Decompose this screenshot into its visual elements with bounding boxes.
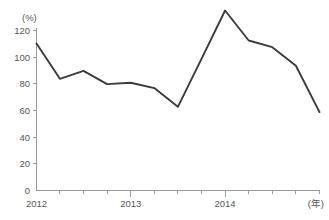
line-chart: 120 100 80 60 40 20 0 (%) 2012 2013 2014… [0,0,329,220]
y-tick-label-100: 100 [14,52,30,63]
y-tick-label-0: 0 [25,185,30,196]
y-tick-label-40: 40 [19,132,30,143]
y-tick-marks [33,31,37,164]
y-tick-label-120: 120 [14,25,30,36]
x-tick-label-2014: 2014 [215,198,236,209]
x-tick-label-2013: 2013 [120,198,141,209]
x-tick-label-2012: 2012 [26,198,47,209]
x-tick-marks [60,191,320,198]
chart-plot-area: 120 100 80 60 40 20 0 (%) 2012 2013 2014… [0,0,329,220]
y-tick-label-80: 80 [19,78,30,89]
data-series-line [37,11,320,113]
y-axis-unit-label: (%) [22,12,37,23]
x-axis-unit-label: (年) [308,198,324,209]
y-tick-label-20: 20 [19,158,30,169]
y-tick-label-60: 60 [19,105,30,116]
